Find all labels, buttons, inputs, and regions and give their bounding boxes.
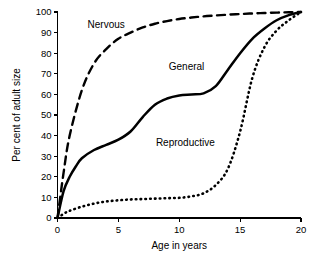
curve-nervous [58, 12, 302, 218]
x-tick-group: 05101520 [55, 218, 306, 235]
x-axis: 05101520 [55, 218, 306, 235]
series-label-group: NervousGeneralReproductive [88, 19, 216, 147]
y-tick-group: 0102030405060708090100 [36, 6, 58, 223]
x-tick-label: 5 [116, 224, 121, 235]
y-tick-label: 50 [41, 109, 52, 120]
chart-svg: 0102030405060708090100 05101520 NervousG… [0, 0, 320, 261]
y-tick-label: 10 [41, 192, 52, 203]
x-tick-label: 0 [55, 224, 60, 235]
x-axis-title: Age in years [151, 240, 207, 251]
series-label-nervous: Nervous [88, 19, 125, 30]
y-tick-label: 0 [46, 212, 51, 223]
y-tick-label: 80 [41, 48, 52, 59]
series-curves [58, 12, 302, 218]
x-tick-label: 15 [235, 224, 246, 235]
y-axis: 0102030405060708090100 [36, 6, 58, 223]
growth-curves-chart: 0102030405060708090100 05101520 NervousG… [0, 0, 320, 261]
curve-reproductive [58, 12, 302, 218]
y-tick-label: 100 [36, 6, 52, 17]
y-tick-label: 70 [41, 68, 52, 79]
y-tick-label: 40 [41, 130, 52, 141]
y-tick-label: 90 [41, 27, 52, 38]
series-label-reproductive: Reproductive [156, 137, 215, 148]
x-tick-label: 20 [296, 224, 307, 235]
y-axis-title: Per cent of adult size [11, 68, 22, 162]
y-tick-label: 60 [41, 89, 52, 100]
y-tick-label: 30 [41, 151, 52, 162]
y-tick-label: 20 [41, 171, 52, 182]
series-label-general: General [169, 61, 205, 72]
curve-general [58, 12, 302, 218]
x-tick-label: 10 [174, 224, 185, 235]
